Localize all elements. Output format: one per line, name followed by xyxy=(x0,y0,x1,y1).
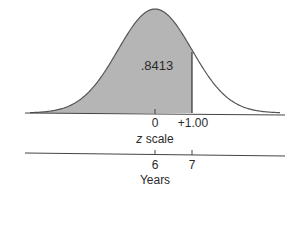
z-tick-label-0: 0 xyxy=(152,116,159,130)
area-label: .8413 xyxy=(141,58,174,73)
z-tick-label-1: +1.00 xyxy=(178,116,208,130)
years-tick-label-7: 7 xyxy=(189,158,196,172)
z-axis-title-rest: scale xyxy=(142,132,173,146)
z-axis-title: z scale xyxy=(136,132,173,146)
years-axis-title: Years xyxy=(140,173,170,187)
years-tick-label-6: 6 xyxy=(152,158,159,172)
